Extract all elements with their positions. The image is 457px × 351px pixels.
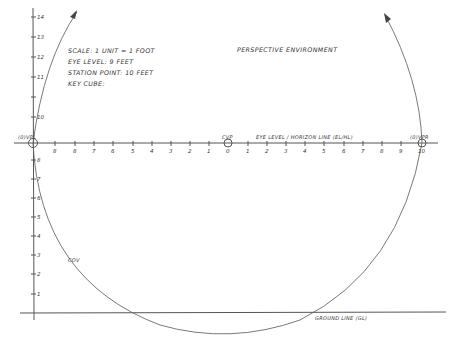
svg-text:7: 7 xyxy=(92,148,96,154)
scale-note: SCALE: 1 UNIT = 1 FOOT xyxy=(68,47,156,54)
right-vp-label: (0)VPR xyxy=(410,134,429,140)
eye-level-note: EYE LEVEL: 9 FEET xyxy=(68,58,134,65)
perspective-diagram: 14 13 12 11 10 8 7 6 5 4 3 2 1 8 8 xyxy=(0,0,457,351)
svg-text:2: 2 xyxy=(188,148,192,154)
svg-text:3: 3 xyxy=(284,148,288,154)
svg-text:5: 5 xyxy=(131,148,135,154)
center-vp-label: CVP xyxy=(222,134,233,140)
svg-text:7: 7 xyxy=(37,176,41,182)
svg-text:5: 5 xyxy=(322,148,326,154)
cov-arc-lower xyxy=(33,143,422,334)
svg-text:5: 5 xyxy=(37,214,41,220)
vertical-measure-line xyxy=(33,8,34,320)
svg-text:6: 6 xyxy=(111,148,115,154)
svg-text:9: 9 xyxy=(399,148,403,154)
svg-text:4: 4 xyxy=(303,148,307,154)
center-tick: 0 xyxy=(226,148,230,154)
svg-text:8: 8 xyxy=(53,148,57,154)
arrow-up-right-icon xyxy=(384,13,391,23)
svg-text:6: 6 xyxy=(342,148,346,154)
cov-arc-upper-right xyxy=(385,15,422,143)
ground-line xyxy=(20,312,446,313)
svg-text:10: 10 xyxy=(418,148,425,154)
svg-text:8: 8 xyxy=(73,148,77,154)
cov-label: COV xyxy=(68,257,80,263)
svg-text:7: 7 xyxy=(361,148,365,154)
svg-text:1: 1 xyxy=(207,148,211,154)
arrow-up-left-icon xyxy=(70,10,77,19)
svg-text:14: 14 xyxy=(37,14,44,20)
svg-text:2: 2 xyxy=(265,148,269,154)
svg-text:12: 12 xyxy=(37,54,44,60)
svg-text:1: 1 xyxy=(37,291,41,297)
svg-text:3: 3 xyxy=(37,252,41,258)
svg-text:4: 4 xyxy=(37,233,41,239)
svg-text:10: 10 xyxy=(37,114,44,120)
svg-text:4: 4 xyxy=(150,148,154,154)
svg-text:8: 8 xyxy=(380,148,384,154)
svg-text:1: 1 xyxy=(246,148,250,154)
ground-line-label: GROUND LINE (GL) xyxy=(315,315,367,321)
key-cube-note: KEY CUBE: xyxy=(68,80,105,87)
diagram-title: PERSPECTIVE ENVIRONMENT xyxy=(237,46,338,53)
svg-text:8: 8 xyxy=(37,157,41,163)
svg-text:2: 2 xyxy=(37,271,41,277)
svg-text:11: 11 xyxy=(37,74,44,80)
station-point-note: STATION POINT: 10 FEET xyxy=(68,69,154,76)
svg-text:13: 13 xyxy=(37,34,44,40)
left-vp-label: (0)VPL xyxy=(18,134,36,140)
svg-text:3: 3 xyxy=(169,148,173,154)
horizon-line-label: EYE LEVEL / HORIZON LINE (EL/HL) xyxy=(256,134,353,140)
vertical-ticks-below: 8 7 6 5 4 3 2 1 xyxy=(31,157,41,297)
svg-text:6: 6 xyxy=(37,195,41,201)
